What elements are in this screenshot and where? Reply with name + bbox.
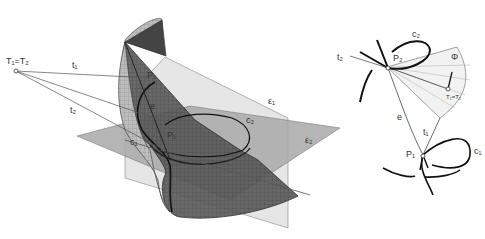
- label-t2-right: t₂: [337, 52, 344, 62]
- point-P1-right: [421, 154, 425, 158]
- point-T: [14, 69, 18, 73]
- label-T-right: T₁=T₂: [446, 94, 462, 100]
- label-t2: t₂: [70, 105, 77, 115]
- figure-canvas: T₁=T₂ t₁ t₂ P₁ e P₁ c₁ c₂ ε₁ ε₂: [0, 0, 485, 239]
- label-eps2: ε₂: [305, 135, 313, 145]
- label-c1: c₁: [130, 137, 138, 147]
- label-P2: P₂: [393, 53, 403, 63]
- right-diagram: t₂ c₂ P₂ Φ T₁=T₂ e t₁ P₁ c₁: [337, 29, 482, 195]
- curve-branch: [360, 70, 372, 102]
- label-eps1: ε₁: [268, 96, 275, 106]
- point-T-right: [446, 87, 450, 91]
- label-c2-right: c₂: [412, 29, 421, 39]
- label-P: P₁: [167, 130, 176, 140]
- label-e: e: [150, 101, 155, 111]
- label-t1-right: t₁: [423, 127, 429, 137]
- label-P1-right: P₁: [406, 149, 415, 159]
- label-t1: t₁: [72, 60, 78, 70]
- curve-branch: [383, 168, 415, 177]
- label-e-right: e: [397, 112, 402, 122]
- left-diagram: T₁=T₂ t₁ t₂ P₁ e P₁ c₁ c₂ ε₁ ε₂: [6, 18, 340, 228]
- label-T1T2: T₁=T₂: [6, 56, 29, 66]
- curve-branch: [425, 170, 460, 177]
- curve-c1-right: [423, 139, 470, 168]
- label-c1-right: c₁: [474, 146, 482, 156]
- point-P2: [386, 66, 390, 70]
- label-P1: P₁: [147, 70, 156, 80]
- label-phi: Φ: [451, 52, 458, 62]
- label-c2: c₂: [246, 115, 255, 125]
- curve-branch: [422, 155, 433, 195]
